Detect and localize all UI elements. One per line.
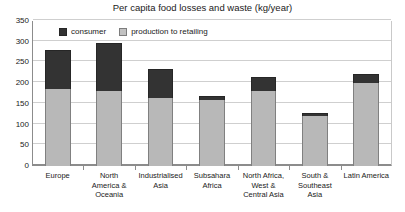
x-axis-label-line: West & bbox=[238, 181, 289, 191]
x-axis-label-line: Central Asia bbox=[238, 190, 289, 200]
y-tick-label: 150 bbox=[3, 100, 29, 108]
x-axis-label-line: America & bbox=[83, 181, 134, 191]
x-axis-label-line: South & bbox=[289, 171, 340, 181]
bar-segment-consumer[interactable] bbox=[45, 50, 71, 89]
legend-swatch-consumer bbox=[59, 28, 67, 36]
x-axis-label-line: Southeast bbox=[289, 181, 340, 191]
x-axis-label: Europe bbox=[32, 171, 83, 181]
x-axis-label: SubsaharaAfrica bbox=[186, 171, 237, 190]
x-axis-label-line: Africa bbox=[186, 181, 237, 191]
bar-stack bbox=[353, 74, 379, 166]
x-axis-label-line: North Africa, bbox=[238, 171, 289, 181]
y-tick-label: 300 bbox=[3, 38, 29, 46]
y-tick-label: 250 bbox=[3, 58, 29, 66]
x-tick bbox=[289, 166, 290, 170]
bar-stack bbox=[45, 50, 71, 166]
gridline-350 bbox=[33, 19, 391, 20]
legend-label: consumer bbox=[71, 27, 106, 36]
bar-group[interactable] bbox=[96, 21, 122, 166]
x-axis-label-line: North bbox=[83, 171, 134, 181]
bar-segment-production[interactable] bbox=[45, 89, 71, 166]
y-tick-label: 100 bbox=[3, 121, 29, 129]
bar-stack bbox=[251, 77, 277, 166]
y-tick-label: 50 bbox=[3, 141, 29, 149]
x-axis-label: North Africa,West &Central Asia bbox=[238, 171, 289, 200]
x-axis-label-line: Europe bbox=[32, 171, 83, 181]
bar-segment-consumer[interactable] bbox=[251, 77, 277, 92]
bar-segment-production[interactable] bbox=[302, 116, 328, 166]
bar-segment-production[interactable] bbox=[199, 100, 225, 166]
bar-segment-production[interactable] bbox=[148, 98, 174, 166]
x-tick bbox=[238, 166, 239, 170]
bar-segment-production[interactable] bbox=[251, 91, 277, 166]
bar-group[interactable] bbox=[148, 21, 174, 166]
bar-group[interactable] bbox=[45, 21, 71, 166]
x-tick bbox=[186, 166, 187, 170]
chart-container: Per capita food losses and waste (kg/yea… bbox=[0, 0, 405, 212]
legend-swatch-production bbox=[119, 28, 127, 36]
x-tick bbox=[341, 166, 342, 170]
x-axis-label-line: Subsahara bbox=[186, 171, 237, 181]
y-axis: 050100150200250300350 bbox=[0, 21, 29, 167]
bar-segment-consumer[interactable] bbox=[96, 43, 122, 92]
chart-legend: consumerproduction to retailing bbox=[57, 26, 210, 37]
bar-stack bbox=[148, 69, 174, 166]
x-axis-label-line: Asia bbox=[289, 190, 340, 200]
bar-segment-consumer[interactable] bbox=[353, 74, 379, 83]
legend-label: production to retailing bbox=[131, 27, 208, 36]
y-tick-label: 200 bbox=[3, 79, 29, 87]
x-tick bbox=[135, 166, 136, 170]
bar-segment-production[interactable] bbox=[353, 83, 379, 166]
x-axis-labels: EuropeNorthAmerica &OceaniaIndustrialise… bbox=[32, 171, 392, 211]
bar-segment-consumer[interactable] bbox=[148, 69, 174, 98]
bars-layer bbox=[32, 21, 392, 166]
x-axis-label-line: Oceania bbox=[83, 190, 134, 200]
bar-group[interactable] bbox=[302, 21, 328, 166]
bar-segment-production[interactable] bbox=[96, 91, 122, 166]
x-axis-ticks bbox=[32, 166, 392, 170]
x-axis-label-line: Industrialised bbox=[135, 171, 186, 181]
chart-title: Per capita food losses and waste (kg/yea… bbox=[0, 2, 405, 14]
bar-stack bbox=[96, 43, 122, 166]
y-tick-label: 350 bbox=[3, 17, 29, 25]
x-axis-label: South &SoutheastAsia bbox=[289, 171, 340, 200]
bar-stack bbox=[199, 96, 225, 166]
bar-stack bbox=[302, 113, 328, 166]
x-axis-label: Latin America bbox=[341, 171, 392, 181]
x-axis-label: IndustrialisedAsia bbox=[135, 171, 186, 190]
bar-group[interactable] bbox=[353, 21, 379, 166]
x-axis-label-line: Latin America bbox=[341, 171, 392, 181]
x-axis-label-line: Asia bbox=[135, 181, 186, 191]
bar-group[interactable] bbox=[199, 21, 225, 166]
bar-group[interactable] bbox=[251, 21, 277, 166]
y-tick-label: 0 bbox=[3, 162, 29, 170]
legend-item[interactable]: production to retailing bbox=[119, 27, 208, 36]
x-tick bbox=[83, 166, 84, 170]
x-axis-label: NorthAmerica &Oceania bbox=[83, 171, 134, 200]
legend-item[interactable]: consumer bbox=[59, 27, 106, 36]
